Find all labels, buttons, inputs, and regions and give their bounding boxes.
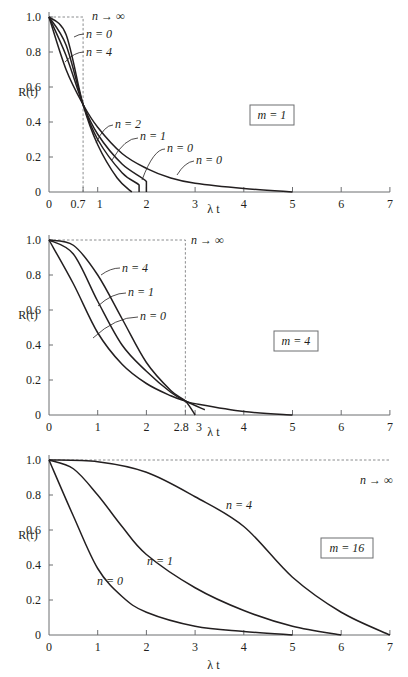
x-tick-label: 0 [46,420,52,434]
y-tick-label: 1.0 [26,233,41,247]
series-label: n = 0 [86,27,112,41]
series-label: n = 4 [86,45,112,59]
y-tick-label: 0.4 [26,558,41,572]
x-tick-label: 7 [387,640,393,654]
leader-line [101,268,120,275]
x-axis-title: λ t [207,425,220,438]
x-tick-label: 4 [241,420,247,434]
x-axis-title: λ t [207,202,220,215]
x-tick-label: 1 [97,197,103,211]
x-tick-label: 3 [196,420,202,434]
series-label: n = 1 [140,129,166,143]
curve-n-1 [49,460,341,635]
x-tick-label: 2.8 [174,420,189,434]
y-tick-label: 1.0 [26,453,41,467]
x-tick-label: 7 [387,197,393,211]
x-tick-label: 6 [338,420,344,434]
series-label: n = 4 [226,498,252,512]
x-tick-label: 2 [143,420,149,434]
y-tick-label: 0 [35,628,41,642]
x-tick-label: 0 [46,640,52,654]
m-value-label: m = 16 [330,541,365,555]
y-tick-label: 0.8 [26,45,41,59]
m-value-label: m = 1 [258,108,287,122]
x-tick-label: 5 [290,420,296,434]
x-tick-label: 3 [192,197,198,211]
series-label: n = 0 [167,141,193,155]
y-tick-label: 0 [35,185,41,199]
y-tick-label: 0.2 [26,593,41,607]
x-tick-label: 4 [241,197,247,211]
series-label: n = 1 [128,285,154,299]
y-tick-label: 0.8 [26,488,41,502]
n-infinity-label: n → ∞ [360,473,393,487]
x-tick-label: 2 [143,197,149,211]
x-axis-title: λ t [207,658,220,672]
x-tick-label: 2 [143,640,149,654]
y-tick-label: 0.4 [26,115,41,129]
x-tick-label: 5 [290,640,296,654]
y-tick-label: 0 [35,408,41,422]
curve-n-2 [49,17,139,192]
series-label: n = 0 [97,574,123,588]
y-axis-title: R(t) [18,308,37,322]
x-tick-label: 1 [95,640,101,654]
n-infinity-label: n → ∞ [191,233,224,247]
x-tick-label: 1 [95,420,101,434]
series-label: n = 0 [196,153,222,167]
x-tick-label: 3 [192,640,198,654]
leader-line [177,161,194,175]
curve-n-0 [49,460,293,635]
series-label: n = 4 [122,261,148,275]
chart-panel-m16: 00.20.40.60.81.001234567R(t)λ tn → ∞n = … [0,443,408,677]
n-infinity-label: n → ∞ [92,9,125,23]
curve-n-1 [49,17,146,192]
x-tick-label: 5 [290,197,296,211]
x-tick-label: 4 [241,640,247,654]
n-infinity-reference-line [49,240,185,415]
leader-line [74,34,84,37]
x-tick-label: 6 [338,197,344,211]
x-tick-label: 7 [387,420,393,434]
x-tick-label: 0.7 [71,197,86,211]
chart-panel-m1: 00.20.40.60.81.000.71234567R(t)λ tn → ∞n… [0,0,408,215]
m-value-label: m = 4 [282,334,311,348]
series-label: n = 1 [147,554,173,568]
chart-m4-plot: 00.20.40.60.81.00122.834567R(t)λ tn → ∞n… [0,223,408,438]
y-tick-label: 1.0 [26,10,41,24]
y-tick-label: 0.2 [26,150,41,164]
series-label: n = 0 [140,309,166,323]
series-label: n = 2 [115,117,141,131]
y-tick-label: 0.2 [26,373,41,387]
chart-panel-m4: 00.20.40.60.81.00122.834567R(t)λ tn → ∞n… [0,223,408,438]
chart-m16-plot: 00.20.40.60.81.001234567R(t)λ tn → ∞n = … [0,443,408,677]
x-tick-label: 0 [46,197,52,211]
y-tick-label: 0.4 [26,338,41,352]
y-axis-title: R(t) [18,85,37,99]
y-tick-label: 0.8 [26,268,41,282]
x-tick-label: 6 [338,640,344,654]
curve-n-0 [49,240,293,415]
y-axis-title: R(t) [18,528,37,542]
chart-m1-plot: 00.20.40.60.81.000.71234567R(t)λ tn → ∞n… [0,0,408,215]
